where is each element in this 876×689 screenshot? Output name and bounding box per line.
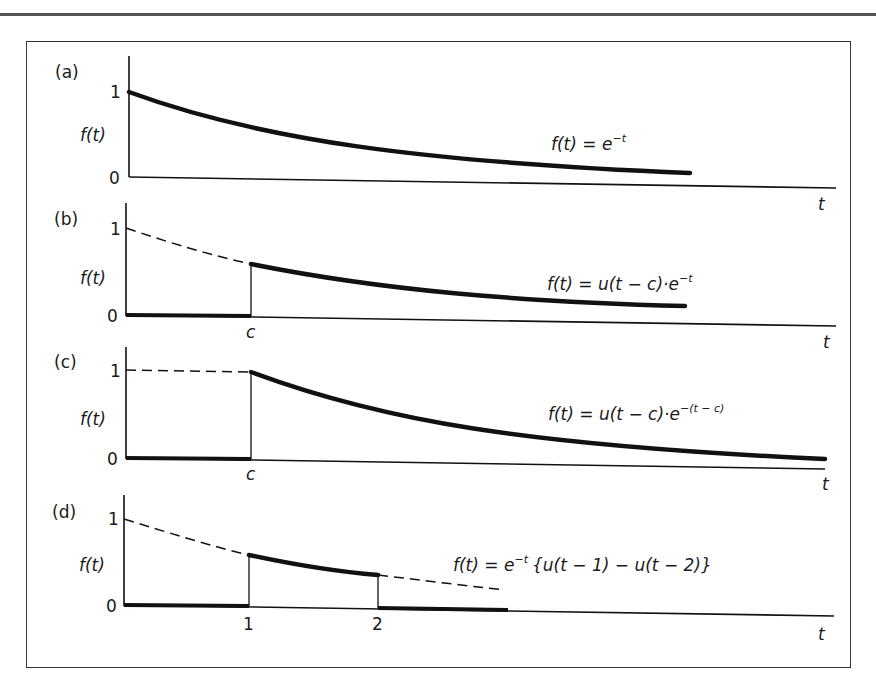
panel-a-ylabel: f(t) bbox=[80, 125, 106, 145]
panel-d-ytick-1: 1 bbox=[108, 509, 119, 529]
panel-d-equation: f(t) = e−t{u(t − 1) − u(t − 2)} bbox=[453, 553, 712, 575]
panel-b-ytick-1: 1 bbox=[110, 219, 121, 239]
panel-b-ylabel: f(t) bbox=[80, 268, 106, 288]
panel-d-label: (d) bbox=[52, 502, 76, 522]
panel-a-ytick-0: 0 bbox=[109, 168, 120, 188]
panel-c-ytick-1: 1 bbox=[110, 361, 121, 381]
panel-a-equation: f(t) = e−t bbox=[551, 132, 627, 154]
panel-a-ytick-1: 1 bbox=[110, 82, 121, 102]
panel-b: (b) 1 0 f(t) c t f(t) = u(t − c)·e−t bbox=[54, 203, 836, 352]
panel-c: (c) 1 0 f(t) c t f(t) = u(t − c)·e−(t − … bbox=[54, 347, 830, 494]
panel-a-label: (a) bbox=[55, 62, 79, 82]
panel-d: (d) 1 0 f(t) 1 2 t f(t) = e−t{u(t − 1) −… bbox=[52, 495, 834, 644]
panel-b-label: (b) bbox=[54, 209, 78, 229]
panel-d-ylabel: f(t) bbox=[79, 555, 105, 575]
panel-c-xtick-c: c bbox=[246, 464, 256, 484]
panel-d-ytick-0: 0 bbox=[106, 596, 117, 616]
panel-c-equation: f(t) = u(t − c)·e−(t − c) bbox=[548, 402, 724, 424]
panel-b-ytick-0: 0 bbox=[107, 306, 118, 326]
panel-c-xlabel: t bbox=[822, 474, 830, 494]
panel-c-ylabel: f(t) bbox=[80, 409, 106, 429]
panel-b-equation: f(t) = u(t − c)·e−t bbox=[547, 272, 693, 294]
panel-c-label: (c) bbox=[54, 352, 77, 372]
panel-b-xlabel: t bbox=[823, 332, 831, 352]
panel-d-xtick-1: 1 bbox=[243, 614, 254, 634]
panel-b-xtick-c: c bbox=[246, 322, 256, 342]
panel-c-ytick-0: 0 bbox=[107, 449, 118, 469]
panel-a-xlabel: t bbox=[818, 194, 826, 214]
panel-a: (a) 1 0 f(t) t f(t) = e−t bbox=[55, 56, 836, 214]
figure-canvas: (a) 1 0 f(t) t f(t) = e−t (b) 1 0 f(t) c… bbox=[0, 0, 876, 689]
panel-d-xlabel: t bbox=[818, 624, 826, 644]
panel-d-xtick-2: 2 bbox=[372, 614, 383, 634]
